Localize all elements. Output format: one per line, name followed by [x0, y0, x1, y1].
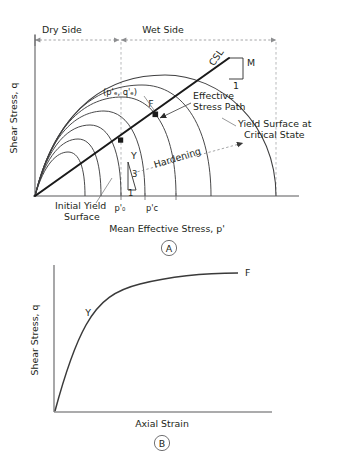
leader-yield-csl: [222, 118, 236, 126]
label-slope-run-1: 1: [233, 80, 239, 91]
panel-a-tag: A: [161, 240, 176, 255]
figure-root: Dry Side Wet Side: [0, 0, 337, 471]
label-esp-line1: Effective: [193, 90, 234, 101]
panel-b: Y F Shear Stress, q Axial Strain B: [29, 265, 272, 451]
label-wet-side: Wet Side: [142, 24, 184, 35]
label-dry-side: Dry Side: [42, 24, 82, 35]
panel-a-tag-letter: A: [166, 243, 173, 254]
panel-a-y-axis-label: Shear Stress, q: [8, 82, 19, 153]
label-initial-yield-line2: Surface: [64, 211, 100, 222]
panel-b-tag-letter: B: [159, 438, 165, 449]
leader-esp: [160, 103, 191, 118]
panel-a-x-axis-label: Mean Effective Stress, p': [109, 223, 225, 234]
label-point-y: Y: [130, 150, 137, 161]
figure-svg: Dry Side Wet Side: [0, 0, 337, 471]
label-hardening: Hardening: [152, 145, 202, 170]
yield-surface-3: [35, 125, 121, 196]
label-initial-yield-line1: Initial Yield: [55, 200, 106, 211]
label-slope-3: 3: [132, 169, 137, 179]
label-esp-line2: Stress Path: [193, 101, 245, 112]
yield-surface-7-critical-state: [35, 75, 276, 196]
panel-b-tag: B: [154, 435, 169, 450]
label-p-c: p'ᴄ: [146, 203, 159, 213]
panel-a: Dry Side Wet Side: [8, 24, 312, 256]
yield-surface-2: [35, 139, 101, 196]
label-yield-csl-line1: Yield Surface at: [237, 118, 312, 129]
label-csl: CSL: [206, 46, 226, 67]
csl-slope-triangle: [229, 58, 243, 79]
panel-b-x-axis-label: Axial Strain: [135, 418, 189, 429]
dimension-lines: [35, 34, 276, 46]
label-slope-m: M: [247, 57, 255, 68]
yield-surface-family: [35, 75, 276, 196]
panel-b-label-y: Y: [84, 307, 91, 318]
label-failure-coords: (p'ₑ, q'ₑ): [103, 87, 137, 97]
label-slope-1: 1: [128, 188, 133, 198]
panel-b-stress-strain-curve: [55, 273, 238, 411]
label-p-zero: p'₀: [115, 203, 127, 213]
label-yield-csl-line2: Critical State: [244, 129, 305, 140]
panel-b-y-axis-label: Shear Stress, q: [29, 304, 40, 375]
marker-initial-yield-point: [118, 138, 123, 143]
marker-failure-point-f: [153, 112, 159, 118]
panel-b-label-f: F: [245, 267, 250, 278]
